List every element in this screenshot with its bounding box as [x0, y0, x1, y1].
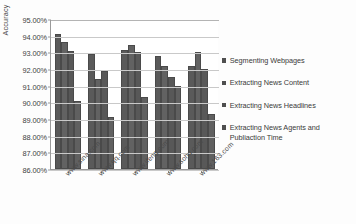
y-tick-label: 87.00%	[23, 149, 47, 158]
legend-item[interactable]: Extracting News Agents and Publiaction T…	[222, 123, 354, 142]
legend-label: Extracting News Content	[230, 78, 309, 87]
gridline	[51, 53, 219, 54]
bar-group	[51, 20, 84, 169]
y-tick-label: 95.00%	[23, 16, 47, 25]
y-tick-label: 92.00%	[23, 66, 47, 75]
gridline	[51, 87, 219, 88]
bar	[61, 42, 68, 169]
y-tick-label: 90.00%	[23, 99, 47, 108]
y-tick-mark	[48, 153, 51, 154]
y-tick-mark	[48, 36, 51, 37]
legend-item[interactable]: Extracting News Content	[222, 78, 354, 87]
y-tick-mark	[48, 53, 51, 54]
gridline	[51, 20, 219, 21]
gridline	[51, 137, 219, 138]
y-tick-label: 86.00%	[23, 166, 47, 175]
gridline	[51, 120, 219, 121]
legend-swatch-icon	[222, 125, 226, 129]
legend-swatch-icon	[222, 103, 226, 107]
y-tick-mark	[48, 170, 51, 171]
legend-swatch-icon	[222, 81, 226, 85]
y-tick-label: 93.00%	[23, 49, 47, 58]
y-tick-mark	[48, 20, 51, 21]
gridline	[51, 153, 219, 154]
y-tick-mark	[48, 70, 51, 71]
bar	[168, 77, 175, 169]
bar	[128, 45, 135, 169]
y-axis-title: Accuracy	[1, 0, 10, 58]
gridline	[51, 70, 219, 71]
bar	[68, 51, 75, 169]
y-tick-mark	[48, 136, 51, 137]
y-tick-mark	[48, 86, 51, 87]
legend-swatch-icon	[222, 58, 226, 62]
y-tick-label: 94.00%	[23, 32, 47, 41]
gridline	[51, 103, 219, 104]
legend-label: Extracting News Headlines	[230, 101, 316, 110]
legend-item[interactable]: Extracting News Headlines	[222, 101, 354, 110]
y-tick-label: 88.00%	[23, 132, 47, 141]
bar	[95, 79, 102, 169]
y-tick-mark	[48, 103, 51, 104]
y-tick-mark	[48, 120, 51, 121]
y-tick-label: 91.00%	[23, 82, 47, 91]
x-axis-labels: www.sina.comwww.qq.comwww.ifeng.comwww.s…	[50, 172, 218, 224]
chart-legend: Segmenting WebpagesExtracting News Conte…	[222, 56, 354, 155]
legend-item[interactable]: Segmenting Webpages	[222, 56, 354, 65]
gridline	[51, 37, 219, 38]
y-tick-label: 89.00%	[23, 116, 47, 125]
bar-chart: Accuracy 95.00%94.00%93.00%92.00%91.00%9…	[0, 0, 356, 224]
legend-label: Extracting News Agents and Publiaction T…	[230, 123, 354, 142]
legend-label: Segmenting Webpages	[230, 56, 305, 65]
